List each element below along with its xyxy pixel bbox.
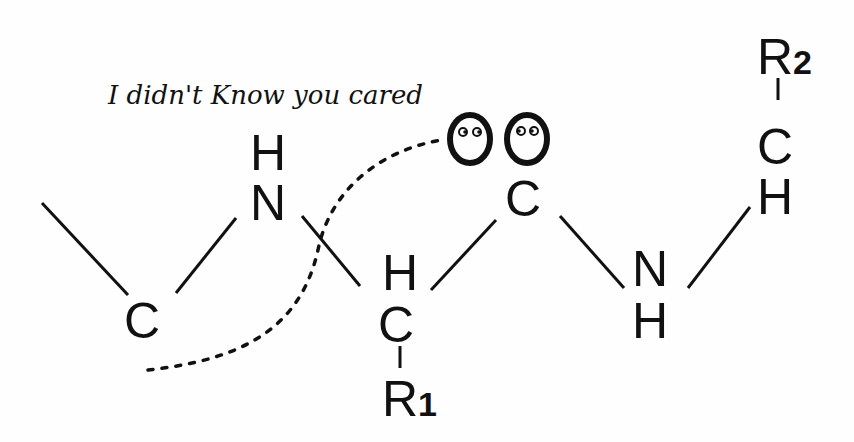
peptide-cartoon-diagram: I didn't Know you cared C H N H C R1 C N… [0, 0, 854, 442]
atom-r2: R2 [757, 29, 812, 85]
diagram-canvas: I didn't Know you cared C H N H C R1 C N… [0, 0, 854, 442]
atom-h-n1: H [250, 125, 286, 181]
oxygen-face-left [450, 115, 490, 163]
atom-h-n2: H [632, 293, 668, 349]
bond-ccarbonyl-n2 [560, 216, 624, 288]
bond-calpha-ccarbonyl [431, 220, 496, 290]
bond-n2-c2 [688, 207, 750, 288]
oxygen-face-right [507, 115, 547, 163]
atom-r1: R1 [382, 371, 437, 427]
atom-c-alpha: C [378, 297, 414, 353]
atom-h-c2: H [757, 169, 793, 225]
atom-c-left: C [124, 293, 160, 349]
atom-c-carbonyl: C [505, 171, 541, 227]
atom-n1: N [250, 175, 286, 231]
bond-c-n1 [176, 218, 236, 293]
atom-c2: C [757, 119, 793, 175]
atom-n2: N [632, 241, 668, 297]
atom-h-alpha: H [382, 245, 418, 301]
bond-left-stub [42, 203, 128, 295]
caption-text: I didn't Know you cared [107, 80, 423, 110]
